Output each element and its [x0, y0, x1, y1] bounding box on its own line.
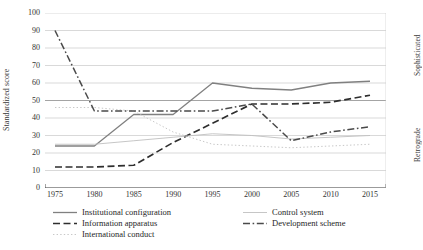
y-axis-tick-label: 100 — [16, 9, 40, 17]
legend-item-label: Development scheme — [272, 219, 345, 228]
legend-swatch — [52, 208, 78, 217]
y-axis-tick-label: 80 — [16, 44, 40, 52]
x-axis-tick-label: 2005 — [283, 190, 299, 200]
x-axis-tick-label: 1980 — [86, 190, 102, 200]
y-axis-tick-label: 50 — [16, 97, 40, 105]
y-axis-tick-label: 60 — [16, 79, 40, 87]
right-axis-label-retrograde: Retrograde — [413, 104, 422, 186]
x-axis-tick-label: 2000 — [244, 190, 260, 200]
legend-swatch — [242, 208, 268, 217]
legend-item-label: Control system — [272, 208, 324, 217]
legend-column-left: Institutional configurationInformation a… — [52, 207, 171, 240]
y-axis-tick-label: 0 — [16, 184, 40, 192]
legend-item[interactable]: Information apparatus — [52, 218, 171, 229]
y-axis-tick-labels: 0102030405060708090100 — [14, 0, 40, 250]
legend-item-label: International conduct — [82, 230, 154, 239]
series-line-4 — [55, 31, 370, 141]
y-axis-tick-label: 70 — [16, 62, 40, 70]
series-line-0 — [55, 81, 370, 146]
legend-item-label: Information apparatus — [82, 219, 157, 228]
legend-swatch-line — [52, 219, 78, 228]
legend-swatch-line — [242, 208, 268, 217]
series-line-1 — [55, 95, 370, 167]
line-chart: Standardized score 010203040506070809010… — [0, 0, 423, 250]
x-axis-tick-label: 1985 — [126, 190, 142, 200]
x-axis-tick-label: 1995 — [205, 190, 221, 200]
y-axis-tick-label: 90 — [16, 27, 40, 35]
x-axis-tick-labels: 197519801985199019952000200520102015 — [45, 190, 386, 204]
y-axis-title: Standardized score — [2, 46, 11, 154]
legend-swatch-line — [52, 208, 78, 217]
x-axis-tick-label: 2015 — [362, 190, 378, 200]
y-axis-tick-label: 40 — [16, 114, 40, 122]
legend-swatch-line — [52, 230, 78, 239]
legend-item[interactable]: Control system — [242, 207, 345, 218]
y-axis-tick-label: 20 — [16, 149, 40, 157]
legend-swatch — [242, 219, 268, 228]
y-axis-tick-label: 10 — [16, 167, 40, 175]
legend-column-right: Control systemDevelopment scheme — [242, 207, 345, 229]
plot-area — [45, 13, 386, 188]
plot-svg — [45, 13, 386, 188]
legend-item[interactable]: International conduct — [52, 229, 171, 240]
chart-legend: Institutional configurationInformation a… — [52, 207, 392, 247]
legend-swatch — [52, 219, 78, 228]
legend-item[interactable]: Institutional configuration — [52, 207, 171, 218]
legend-item[interactable]: Development scheme — [242, 218, 345, 229]
right-axis-label-sophisticated: Sophisticated — [413, 14, 422, 96]
legend-swatch — [52, 230, 78, 239]
x-axis-tick-label: 2010 — [323, 190, 339, 200]
legend-item-label: Institutional configuration — [82, 208, 171, 217]
x-axis-tick-label: 1975 — [47, 190, 63, 200]
x-axis-tick-label: 1990 — [165, 190, 181, 200]
y-axis-tick-label: 30 — [16, 132, 40, 140]
series-line-2 — [55, 108, 370, 148]
legend-swatch-line — [242, 219, 268, 228]
